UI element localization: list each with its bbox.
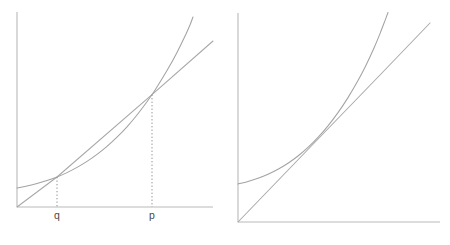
right-panel — [238, 13, 440, 223]
left-panel: q p — [17, 12, 213, 221]
left-convex-curve — [17, 17, 193, 188]
figure-svg: q p — [0, 0, 450, 245]
left-secant-line — [17, 41, 213, 207]
left-tick-label-p: p — [149, 209, 155, 221]
right-tangent-line — [238, 23, 430, 222]
right-convex-curve — [238, 13, 388, 185]
figure-container: q p — [0, 0, 450, 245]
left-tick-label-q: q — [54, 209, 60, 221]
